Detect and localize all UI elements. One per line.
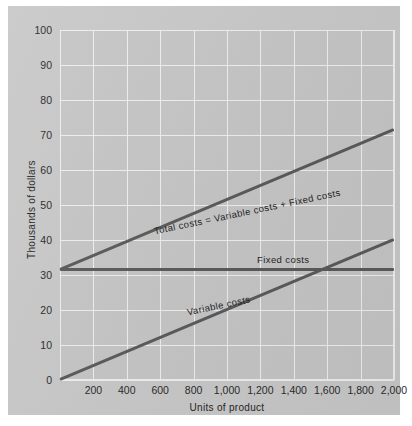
series-annotation: Fixed costs [257, 254, 309, 265]
y-tick-label: 40 [40, 234, 52, 246]
series-line [60, 268, 394, 271]
y-tick-label: 50 [40, 199, 52, 211]
gridline-horizontal [60, 380, 394, 381]
gridline-horizontal [60, 345, 394, 346]
gridline-horizontal [60, 100, 394, 101]
y-tick-label: 70 [40, 129, 52, 141]
x-tick-label: 1,000 [214, 384, 240, 396]
chart-panel: Thousands of dollars 0102030405060708090… [8, 6, 400, 415]
x-tick-label: 1,200 [247, 384, 273, 396]
y-tick-label: 20 [40, 304, 52, 316]
gridline-horizontal [60, 240, 394, 241]
x-tick-label: 400 [118, 384, 136, 396]
y-tick-label: 10 [40, 339, 52, 351]
x-tick-label: 1,600 [314, 384, 340, 396]
x-tick-label: 2,000 [381, 384, 407, 396]
gridline-horizontal [60, 170, 394, 171]
gridline-horizontal [60, 30, 394, 31]
y-tick-label: 30 [40, 269, 52, 281]
gridline-horizontal [60, 205, 394, 206]
gridline-horizontal [60, 135, 394, 136]
x-tick-label: 1,400 [281, 384, 307, 396]
x-axis-title: Units of product [60, 402, 394, 413]
x-tick-label: 800 [185, 384, 203, 396]
series-annotation: Total costs = Variable costs + Fixed cos… [152, 187, 341, 237]
gridline-horizontal [60, 65, 394, 66]
x-tick-label: 600 [151, 384, 169, 396]
y-tick-label: 0 [46, 374, 52, 386]
gridline-horizontal [60, 275, 394, 276]
y-axis-tick-labels: 0102030405060708090100 [8, 30, 56, 380]
y-tick-label: 60 [40, 164, 52, 176]
x-axis-tick-labels: 2004006008001,0001,2001,4001,6001,8002,0… [60, 384, 394, 400]
y-tick-label: 100 [34, 24, 52, 36]
y-tick-label: 90 [40, 59, 52, 71]
x-tick-label: 200 [85, 384, 103, 396]
gridline-vertical [394, 30, 395, 380]
chart-figure: Thousands of dollars 0102030405060708090… [0, 0, 412, 426]
y-tick-label: 80 [40, 94, 52, 106]
plot-area: Total costs = Variable costs + Fixed cos… [60, 30, 394, 380]
x-tick-label: 1,800 [347, 384, 373, 396]
